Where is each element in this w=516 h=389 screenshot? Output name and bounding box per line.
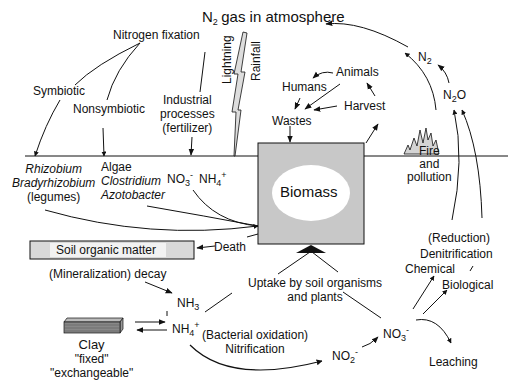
lightning-bolt-icon <box>232 32 247 156</box>
soil-organic-matter-label: Soil organic matter <box>56 243 156 257</box>
reduction-arc-1 <box>452 110 459 220</box>
nh4-fertilizer-label: NH4+ <box>199 168 227 190</box>
clay-block-icon <box>64 318 123 333</box>
humans-to-wastes-arrow <box>295 98 300 109</box>
harvest-label: Harvest <box>344 99 385 113</box>
symbiotic-label: Symbiotic <box>33 84 85 98</box>
atmosphere-label: N2 gas in atmosphere <box>202 10 345 29</box>
leaching-label: Leaching <box>429 355 478 369</box>
biomass-to-harvest-arrow <box>366 124 378 143</box>
nitrification-label: (Bacterial oxidation) Nitrification <box>202 328 308 356</box>
n2o-to-n2-arrow <box>438 65 449 83</box>
wastes-label: Wastes <box>272 114 312 128</box>
humans-label: Humans <box>282 80 327 94</box>
harvest-to-animals-arrow <box>367 83 375 96</box>
reduction-label: (Reduction) <box>428 231 490 245</box>
fire-pollution-label: Fire and pollution <box>407 145 452 184</box>
no2-to-no3-arrow <box>362 337 378 347</box>
reduction-arc-2 <box>462 110 482 218</box>
nh3-uptake-line <box>205 293 232 312</box>
leaching-arrow <box>416 319 451 343</box>
symbiotic-arrow <box>35 100 60 156</box>
no3-fertilizer-label: NO3- <box>167 168 193 190</box>
industrial-arrow <box>191 137 192 155</box>
no2-label: NO2- <box>332 345 358 367</box>
nonsymbiotic-arrow <box>103 128 104 156</box>
biological-label: Biological <box>442 278 493 292</box>
nonsymbiotic-label: Nonsymbiotic <box>73 102 145 116</box>
chemical-arrow <box>413 276 434 309</box>
fixation-symbiotic-line <box>75 43 140 85</box>
nh4-label: NH4+ <box>172 318 200 340</box>
animals-to-humans-arrow <box>313 72 333 78</box>
clay-label-group: Clay "fixed" "exchangeable" <box>50 338 133 380</box>
uptake-line-right <box>312 252 338 272</box>
biological-arrow <box>423 290 447 314</box>
mineralization-label: (Mineralization) decay <box>49 267 166 281</box>
industrial-processes-label: Industrial processes (fertilizer) <box>160 93 215 135</box>
biomass-label: Biomass <box>280 185 338 199</box>
death-arrow <box>247 234 258 237</box>
animals-label: Animals <box>336 65 379 79</box>
n2o-label: N2O <box>443 88 466 106</box>
death-to-soil-arrow <box>197 246 215 248</box>
nonsymbiotic-organisms-label: Algae Clostridium Azotobacter <box>101 160 165 202</box>
uptake-arrow-head <box>296 245 326 253</box>
lightning-label: Lightning <box>220 35 234 84</box>
uptake-label: Uptake by soil organisms and plants <box>248 276 382 304</box>
nitrogen-fixation-label: Nitrogen fixation <box>113 28 200 42</box>
industrial-line <box>200 52 205 92</box>
no3-soil-label: NO3- <box>383 323 409 345</box>
chemical-label: Chemical <box>405 262 455 276</box>
mineralization-arrow <box>145 282 172 293</box>
harvest-to-wastes-arrow <box>314 106 337 110</box>
denitrification-slash <box>470 266 473 271</box>
rainfall-label: Rainfall <box>249 41 263 81</box>
nh3-label: NH3 <box>177 296 199 314</box>
n2-label: N2 <box>418 50 432 68</box>
uptake-line-left <box>278 252 310 274</box>
symbiotic-organisms-label: Rhizobium Bradyrhizobium (legumes) <box>12 162 95 204</box>
ions-to-biomass-arrow <box>193 190 258 226</box>
denitrification-label: Denitrification <box>420 247 493 261</box>
death-label: Death <box>214 240 246 254</box>
